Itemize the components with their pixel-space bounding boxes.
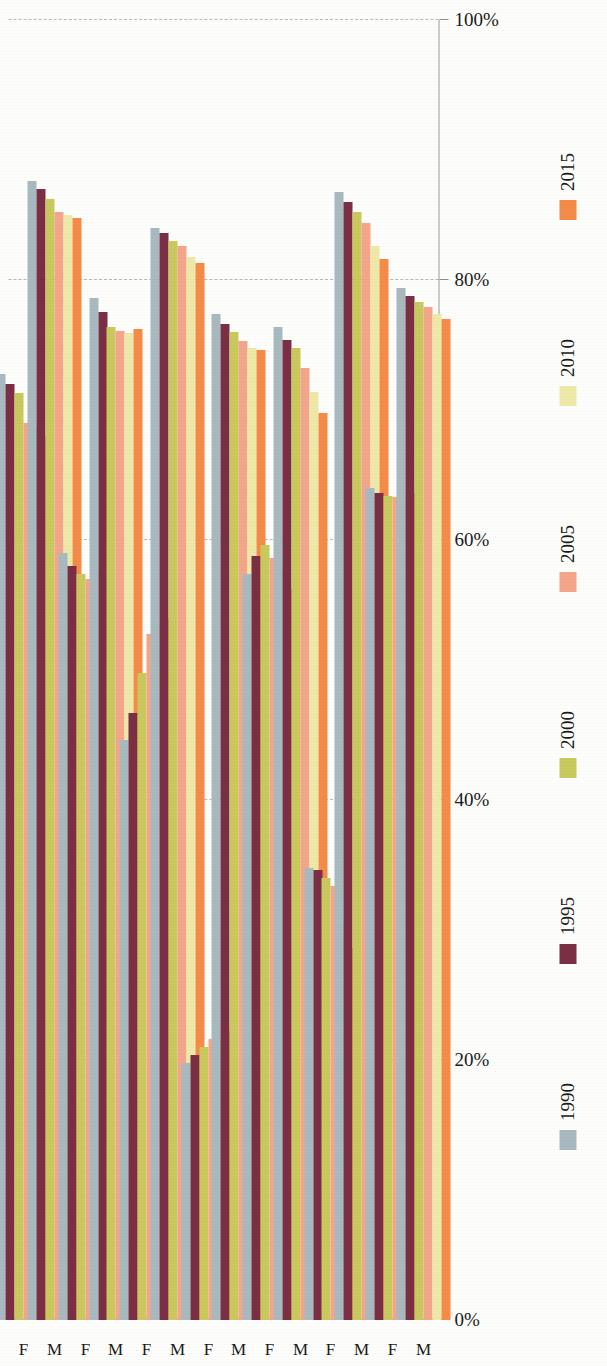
legend-swatch-2005 bbox=[559, 572, 576, 592]
bar-1995 bbox=[251, 556, 260, 1320]
sex-axis-label: F bbox=[80, 1340, 89, 1360]
legend-item-2010[interactable]: 2010 bbox=[556, 339, 578, 406]
bar-1995 bbox=[343, 202, 352, 1320]
bar-2010 bbox=[432, 314, 441, 1320]
bar-1995 bbox=[190, 1055, 199, 1320]
bar-1990 bbox=[89, 298, 98, 1320]
sex-axis-label: F bbox=[264, 1340, 273, 1360]
bar-2000 bbox=[106, 327, 115, 1320]
bar-1990 bbox=[365, 488, 374, 1320]
bar-2000 bbox=[137, 673, 146, 1320]
bar-1990 bbox=[58, 553, 67, 1320]
sex-axis-label: M bbox=[169, 1340, 184, 1360]
sex-axis-label: M bbox=[415, 1340, 430, 1360]
bar-1995 bbox=[128, 713, 137, 1320]
bar-1990 bbox=[396, 288, 405, 1320]
sex-axis-label: F bbox=[141, 1340, 150, 1360]
legend-swatch-2015 bbox=[559, 200, 576, 220]
bar-2005 bbox=[423, 307, 432, 1320]
legend-label-1990: 1990 bbox=[556, 1083, 578, 1121]
axis-tick-label: 20% bbox=[454, 1049, 489, 1071]
rotated-chart-canvas: 0%20%40%60%80%100%FMFMFMFMFMFMFMEast Asi… bbox=[0, 0, 607, 1366]
bar-1990 bbox=[119, 740, 128, 1320]
bar-1990 bbox=[211, 314, 220, 1320]
bar-2015 bbox=[441, 319, 450, 1320]
plot-area: 0%20%40%60%80%100%FMFMFMFMFMFMFMEast Asi… bbox=[8, 20, 438, 1320]
legend-swatch-2010 bbox=[559, 386, 576, 406]
legend-item-2015[interactable]: 2015 bbox=[556, 153, 578, 220]
bar-1995 bbox=[313, 870, 322, 1320]
bar-2000 bbox=[352, 212, 361, 1320]
bar-2000 bbox=[199, 1047, 208, 1320]
axis-tick bbox=[439, 279, 448, 280]
bar-1990 bbox=[304, 868, 313, 1320]
bar-2000 bbox=[76, 574, 85, 1320]
bar-1990 bbox=[27, 181, 36, 1320]
bar-1995 bbox=[374, 493, 383, 1320]
bar-2000 bbox=[291, 348, 300, 1320]
bar-2000 bbox=[14, 393, 23, 1320]
legend-label-2005: 2005 bbox=[556, 525, 578, 563]
sex-axis-label: F bbox=[387, 1340, 396, 1360]
sex-axis-label: M bbox=[292, 1340, 307, 1360]
bar-1995 bbox=[159, 233, 168, 1320]
bar-1995 bbox=[282, 340, 291, 1320]
bar-1995 bbox=[98, 313, 107, 1321]
bar-2000 bbox=[260, 545, 269, 1320]
legend-swatch-1995 bbox=[559, 944, 576, 964]
chart-legend: 199019952000200520102015 bbox=[556, 20, 590, 1320]
sex-axis-label: F bbox=[19, 1340, 28, 1360]
bar-2000 bbox=[45, 199, 54, 1320]
legend-item-2000[interactable]: 2000 bbox=[556, 711, 578, 778]
bar-1995 bbox=[405, 296, 414, 1320]
bar-1995 bbox=[5, 384, 14, 1320]
bar-1990 bbox=[0, 374, 5, 1320]
axis-tick-label: 100% bbox=[454, 9, 498, 31]
bar-group: M bbox=[407, 20, 438, 1320]
bar-1990 bbox=[334, 192, 343, 1320]
axis-tick bbox=[439, 19, 448, 20]
sex-axis-label: M bbox=[108, 1340, 123, 1360]
sex-axis-label: M bbox=[46, 1340, 61, 1360]
bar-1990 bbox=[150, 228, 159, 1320]
bar-2000 bbox=[168, 241, 177, 1320]
legend-label-2015: 2015 bbox=[556, 153, 578, 191]
grouped-bar-chart: 0%20%40%60%80%100%FMFMFMFMFMFMFMEast Asi… bbox=[0, 0, 607, 1366]
axis-tick-label: 60% bbox=[454, 529, 489, 551]
sex-axis-label: M bbox=[354, 1340, 369, 1360]
legend-item-1995[interactable]: 1995 bbox=[556, 897, 578, 964]
legend-swatch-2000 bbox=[559, 758, 576, 778]
legend-swatch-1990 bbox=[559, 1130, 576, 1150]
bar-1990 bbox=[273, 327, 282, 1320]
legend-item-2005[interactable]: 2005 bbox=[556, 525, 578, 592]
legend-label-2010: 2010 bbox=[556, 339, 578, 377]
sex-axis-label: M bbox=[231, 1340, 246, 1360]
bar-2000 bbox=[229, 332, 238, 1320]
bar-1990 bbox=[242, 574, 251, 1320]
bar-2000 bbox=[383, 496, 392, 1320]
bar-1995 bbox=[220, 324, 229, 1320]
legend-label-1995: 1995 bbox=[556, 897, 578, 935]
axis-tick-label: 80% bbox=[454, 269, 489, 291]
legend-item-1990[interactable]: 1990 bbox=[556, 1083, 578, 1150]
sex-axis-label: F bbox=[203, 1340, 212, 1360]
chart-page: 0%20%40%60%80%100%FMFMFMFMFMFMFMEast Asi… bbox=[0, 0, 607, 1366]
axis-tick-label: 0% bbox=[454, 1309, 479, 1331]
axis-tick-label: 40% bbox=[454, 789, 489, 811]
bar-2000 bbox=[321, 878, 330, 1320]
sex-axis-label: F bbox=[326, 1340, 335, 1360]
legend-label-2000: 2000 bbox=[556, 711, 578, 749]
bar-1990 bbox=[181, 1063, 190, 1320]
bar-1995 bbox=[36, 189, 45, 1320]
bar-2000 bbox=[414, 302, 423, 1320]
bar-1995 bbox=[67, 566, 76, 1320]
